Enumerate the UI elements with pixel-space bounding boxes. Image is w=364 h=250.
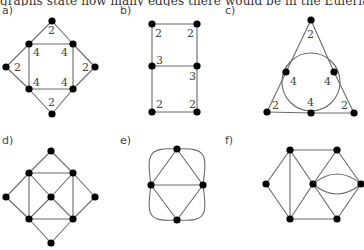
edge: [290, 184, 313, 219]
vertex: [307, 109, 314, 116]
vertex: [263, 108, 270, 115]
edge: [313, 184, 337, 219]
degree-label: 2: [187, 27, 194, 40]
vertex: [47, 193, 54, 200]
vertex: [25, 85, 32, 92]
panel-label: b): [120, 4, 131, 17]
edge: [29, 197, 51, 219]
graph-e: e): [120, 134, 207, 224]
vertex: [193, 62, 200, 69]
vertex: [173, 216, 180, 223]
degree-label: 4: [33, 76, 40, 89]
edge: [177, 185, 203, 220]
degree-label: 2: [341, 99, 348, 112]
vertex: [282, 68, 289, 75]
degree-label: 2: [156, 98, 163, 111]
vertex: [2, 63, 9, 70]
graph-b: b)223322: [120, 4, 201, 116]
edge: [151, 185, 177, 220]
vertex: [350, 109, 357, 116]
edge: [290, 150, 313, 184]
edge: [73, 197, 95, 219]
vertex: [330, 68, 337, 75]
vertex: [2, 193, 9, 200]
edge: [337, 184, 361, 219]
edge: [29, 173, 51, 197]
vertex: [148, 62, 155, 69]
degree-label: 2: [155, 27, 162, 40]
edge: [266, 150, 290, 184]
edge: [29, 151, 51, 173]
vertex: [262, 180, 269, 187]
degree-label: 2: [189, 98, 196, 111]
vertex: [199, 181, 206, 188]
vertex: [25, 215, 32, 222]
vertex: [25, 169, 32, 176]
panel-label: c): [225, 4, 235, 17]
vertex: [25, 40, 32, 47]
vertex: [91, 63, 98, 70]
vertex: [69, 85, 76, 92]
edge: [6, 173, 29, 197]
vertex: [333, 215, 340, 222]
edge: [311, 20, 334, 72]
edge: [337, 150, 361, 184]
vertex: [47, 147, 54, 154]
vertex: [147, 181, 154, 188]
degree-label: 4: [307, 96, 314, 109]
degree-label: 2: [82, 61, 89, 74]
edge: [52, 21, 73, 44]
graph-f: f): [225, 134, 364, 223]
curved-edge: [313, 174, 361, 184]
degree-label: 2: [48, 24, 55, 37]
curved-edge: [313, 184, 361, 194]
vertex: [173, 145, 180, 152]
vertex: [193, 20, 200, 27]
panel-label: d): [2, 134, 13, 147]
graph-figure: a)24422442b)223322c)244242d)e)f): [0, 0, 364, 250]
panel-label: f): [225, 134, 233, 147]
vertex: [69, 215, 76, 222]
edge: [52, 89, 73, 114]
vertex: [47, 239, 54, 246]
edge: [266, 184, 290, 219]
degree-label: 4: [61, 76, 68, 89]
vertex: [286, 215, 293, 222]
degree-label: 3: [156, 54, 163, 67]
vertex: [333, 146, 340, 153]
edge: [29, 219, 51, 243]
graph-d: d): [2, 134, 99, 247]
degree-label: 2: [272, 99, 279, 112]
edge: [151, 149, 177, 185]
edge: [267, 112, 311, 113]
degree-label: 4: [61, 46, 68, 59]
panel-label: a): [2, 4, 13, 17]
graph-a: a)24422442: [2, 4, 99, 118]
vertex: [91, 193, 98, 200]
edge: [51, 219, 73, 243]
degree-label: 2: [14, 61, 21, 74]
edge: [51, 197, 73, 219]
vertex: [48, 110, 55, 117]
degree-label: 3: [189, 70, 196, 83]
degree-label: 2: [307, 28, 314, 41]
vertex: [309, 180, 316, 187]
edge: [313, 150, 337, 184]
vertex: [307, 16, 314, 23]
edge: [51, 151, 73, 173]
vertex: [148, 108, 155, 115]
degree-label: 4: [33, 46, 40, 59]
vertex: [69, 40, 76, 47]
degree-label: 4: [324, 75, 331, 88]
vertex: [286, 146, 293, 153]
edge: [6, 197, 29, 219]
panel-label: e): [120, 134, 131, 147]
edge: [73, 173, 95, 197]
edge: [177, 149, 203, 185]
vertex: [69, 169, 76, 176]
degree-label: 2: [48, 96, 55, 109]
degree-label: 4: [290, 75, 297, 88]
graph-c: c)244242: [225, 4, 358, 117]
edge: [51, 173, 73, 197]
